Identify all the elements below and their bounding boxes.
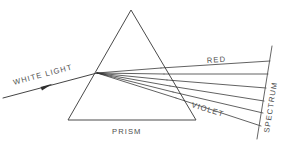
prism-dispersion-diagram: WHITE LIGHT PRISM RED VIOLET SPECTRUM xyxy=(0,0,285,144)
prism-triangle xyxy=(68,10,196,120)
internal-ray-red xyxy=(97,68,161,73)
label-prism: PRISM xyxy=(112,127,142,136)
emergent-ray-yellow xyxy=(167,80,266,88)
emergent-ray-green xyxy=(170,86,264,101)
diagram-canvas: WHITE LIGHT PRISM RED VIOLET SPECTRUM xyxy=(0,0,285,144)
label-white-light: WHITE LIGHT xyxy=(12,62,73,86)
label-red: RED xyxy=(207,55,227,65)
internal-ray-blue xyxy=(97,73,173,92)
incident-ray-arrow-icon xyxy=(41,84,53,91)
